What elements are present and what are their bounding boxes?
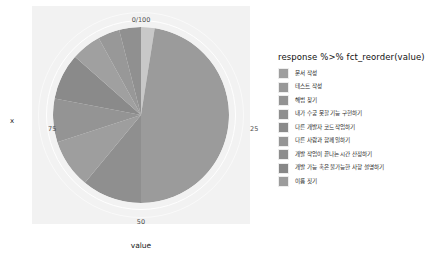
- legend-swatch: [278, 163, 289, 174]
- legend-swatch: [278, 136, 289, 147]
- legend-item-label: 다른 사람과 함께 일하기: [295, 138, 350, 144]
- legend-item[interactable]: 문서 작성: [278, 67, 430, 81]
- legend-swatch: [278, 176, 289, 187]
- x-axis-title: value: [131, 241, 152, 250]
- legend: response %>% fct_reorder(value) 문서 작성테스트…: [278, 52, 430, 189]
- pie-slices: [53, 27, 229, 203]
- legend-item-label: 해법 찾기: [295, 98, 317, 104]
- legend-item-label: 이름 짓기: [295, 179, 317, 185]
- legend-item[interactable]: 다른 사람과 함께 일하기: [278, 135, 430, 149]
- legend-item[interactable]: 해법 찾기: [278, 94, 430, 108]
- legend-swatch: [278, 95, 289, 106]
- legend-item-label: 내가 수궁 못할 기능 구현하기: [295, 111, 362, 117]
- legend-item-label: 개발 작업이 끝나는 시간 산정하기: [295, 152, 372, 158]
- legend-swatch: [278, 122, 289, 133]
- chart-root: 0/100 25 50 75 x value response %>% fct_…: [0, 0, 434, 262]
- axis-tick-top: 0/100: [132, 16, 151, 24]
- legend-item[interactable]: 개발 작업이 끝나는 시간 산정하기: [278, 148, 430, 162]
- axis-tick-right: 25: [250, 125, 258, 133]
- legend-items: 문서 작성테스트 작성해법 찾기내가 수궁 못할 기능 구현하기다른 개발자 코…: [278, 67, 430, 189]
- legend-item-label: 테스트 작성: [295, 84, 322, 90]
- pie-svg: [53, 27, 229, 203]
- y-axis-title: x: [10, 117, 14, 125]
- legend-swatch: [278, 82, 289, 93]
- pie-chart: [53, 27, 229, 203]
- plot-panel: 0/100 25 50 75: [32, 6, 250, 224]
- axis-tick-bottom: 50: [137, 218, 145, 226]
- plot-panel-inner: 0/100 25 50 75: [32, 6, 250, 224]
- legend-item[interactable]: 이름 짓기: [278, 175, 430, 189]
- legend-swatch: [278, 149, 289, 160]
- legend-item[interactable]: 내가 수궁 못할 기능 구현하기: [278, 108, 430, 122]
- legend-swatch: [278, 109, 289, 120]
- legend-item-label: 문서 작성: [295, 71, 317, 77]
- legend-item-label: 개발 가능 혹은 불가능한 사항 설명하기: [295, 165, 384, 171]
- legend-item[interactable]: 테스트 작성: [278, 81, 430, 95]
- legend-swatch: [278, 68, 289, 79]
- legend-title: response %>% fct_reorder(value): [278, 52, 430, 62]
- legend-item-label: 다른 개발자 코드 작업하기: [295, 125, 355, 131]
- axis-tick-left: 75: [48, 125, 56, 133]
- legend-item[interactable]: 다른 개발자 코드 작업하기: [278, 121, 430, 135]
- legend-item[interactable]: 개발 가능 혹은 불가능한 사항 설명하기: [278, 162, 430, 176]
